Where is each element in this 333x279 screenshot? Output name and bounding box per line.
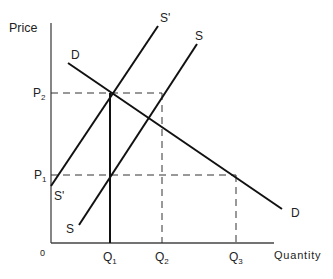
supply-top-label: S bbox=[195, 29, 203, 43]
y-axis-label: Price bbox=[9, 21, 38, 35]
supply-shifted-bottom-label: S' bbox=[54, 189, 64, 203]
supply-demand-diagram: Price Quantity 0 P2 P1 Q1 Q2 Q3 D D S S … bbox=[0, 0, 333, 279]
demand-curve bbox=[68, 63, 282, 209]
supply-bottom-label: S bbox=[66, 222, 74, 236]
p2-label: P2 bbox=[33, 86, 46, 102]
supply-curve bbox=[79, 44, 197, 225]
q3-label: Q3 bbox=[229, 250, 243, 266]
demand-bottom-label: D bbox=[291, 206, 300, 220]
p1-label: P1 bbox=[34, 168, 47, 184]
x-axis-label: Quantity bbox=[274, 249, 321, 261]
q2-label: Q2 bbox=[155, 250, 169, 266]
demand-top-label: D bbox=[71, 48, 80, 62]
origin-label: 0 bbox=[40, 248, 45, 258]
supply-shifted-curve bbox=[51, 26, 158, 186]
q1-label: Q1 bbox=[103, 250, 117, 266]
supply-shifted-top-label: S' bbox=[160, 11, 170, 25]
